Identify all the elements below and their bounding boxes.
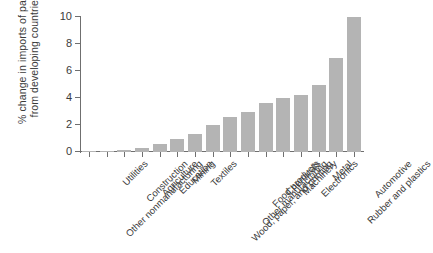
bar[interactable] [294, 95, 308, 152]
x-axis-category-label: Utilities [120, 158, 150, 188]
x-axis-tick [230, 152, 231, 157]
bar[interactable] [259, 103, 273, 152]
bar[interactable] [135, 148, 149, 152]
y-axis-tick-label: 4 [66, 90, 72, 104]
x-axis-tick [266, 152, 267, 157]
x-axis-tick [107, 152, 108, 157]
bar[interactable] [188, 134, 202, 152]
x-axis-tick [354, 152, 355, 157]
x-axis-tick [319, 152, 320, 157]
x-axis-tick [248, 152, 249, 157]
bar[interactable] [241, 112, 255, 153]
y-axis-tick: 6 [75, 70, 80, 71]
y-axis-tick-label: 10 [60, 9, 72, 23]
x-axis-tick [89, 152, 90, 157]
bar[interactable] [223, 117, 237, 152]
y-axis-title: % change in imports of parts from develo… [10, 0, 46, 131]
y-axis-tick-label: 2 [66, 117, 72, 131]
x-axis-labels: Other nonmanufacturingUtilitiesConstruct… [80, 158, 370, 253]
bar[interactable] [153, 144, 167, 152]
x-axis-tick [124, 152, 125, 157]
bar[interactable] [100, 151, 114, 152]
y-axis-tick-label: 6 [66, 63, 72, 77]
plot-area: 0246810 [80, 17, 363, 152]
x-axis-tick [301, 152, 302, 157]
y-axis-tick-label: 8 [66, 36, 72, 50]
y-axis-tick: 8 [75, 43, 80, 44]
bar[interactable] [312, 85, 326, 153]
y-axis-tick: 2 [75, 124, 80, 125]
x-axis-tick [213, 152, 214, 157]
y-axis-tick: 4 [75, 97, 80, 98]
bar[interactable] [206, 125, 220, 152]
x-axis-tick [160, 152, 161, 157]
bar[interactable] [82, 151, 96, 152]
bar[interactable] [276, 98, 290, 152]
x-axis-tick [336, 152, 337, 157]
y-axis-tick: 10 [75, 16, 80, 17]
y-axis-title-line-2: from developing countries [28, 0, 41, 117]
bar[interactable] [170, 139, 184, 153]
y-axis-title-line-1: % change in imports of parts [16, 0, 29, 124]
bar[interactable] [329, 58, 343, 153]
y-axis-tick: 0 [75, 151, 80, 152]
bar[interactable] [117, 150, 131, 152]
bar[interactable] [347, 17, 361, 152]
x-axis-tick [142, 152, 143, 157]
x-axis-tick [283, 152, 284, 157]
y-axis-tick-label: 0 [66, 144, 72, 158]
x-axis-tick [177, 152, 178, 157]
y-axis-line [80, 16, 81, 153]
x-axis-tick [195, 152, 196, 157]
